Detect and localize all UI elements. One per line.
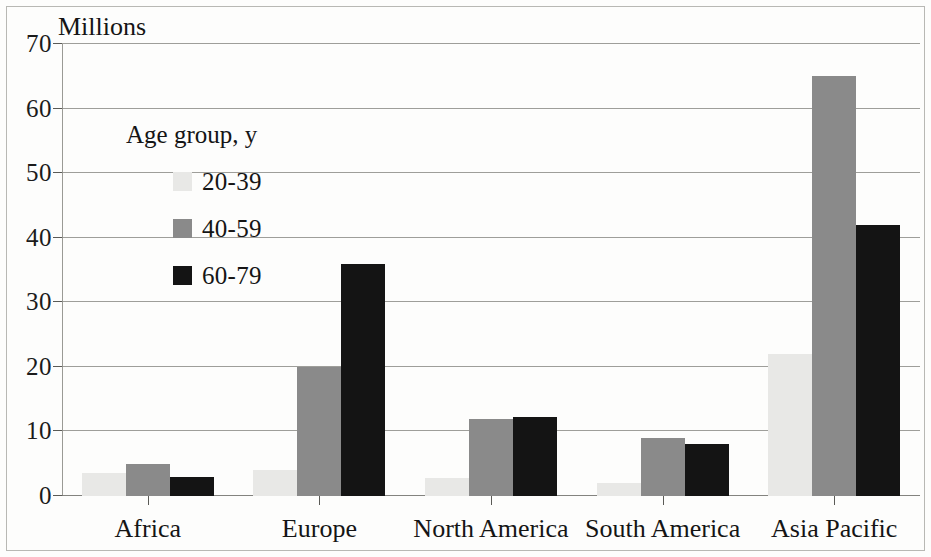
bar[interactable] <box>685 444 729 496</box>
legend-item[interactable]: 20-39 <box>118 169 328 194</box>
bar[interactable] <box>469 419 513 496</box>
bar[interactable] <box>297 367 341 496</box>
y-axis-label-40: 40 <box>26 225 52 250</box>
y-axis-label-20: 20 <box>26 354 52 379</box>
bar-group-bars <box>577 44 749 496</box>
x-tick <box>319 496 320 505</box>
legend-item[interactable]: 40-59 <box>118 216 328 241</box>
legend-items: 20-3940-5960-79 <box>118 169 328 288</box>
legend-item[interactable]: 60-79 <box>118 263 328 288</box>
bar[interactable] <box>341 264 385 496</box>
legend-item-label: 20-39 <box>202 169 262 194</box>
y-axis-label-30: 30 <box>26 289 52 314</box>
x-axis-label-asia-pacific: Asia Pacific <box>748 516 920 542</box>
y-axis-label-70: 70 <box>26 31 52 56</box>
bar[interactable] <box>170 477 214 496</box>
y-tick-40 <box>53 237 62 238</box>
y-tick-60 <box>53 108 62 109</box>
y-tick-0 <box>53 495 62 496</box>
bar[interactable] <box>425 478 469 496</box>
x-tick <box>663 496 664 505</box>
bar[interactable] <box>253 470 297 496</box>
x-axis-label-north-america: North America <box>405 516 577 542</box>
y-axis-label-60: 60 <box>26 96 52 121</box>
bar[interactable] <box>812 76 856 496</box>
bar-group-bars <box>405 44 577 496</box>
bar[interactable] <box>641 438 685 496</box>
y-axis-label-50: 50 <box>26 160 52 185</box>
x-axis-label-south-america: South America <box>577 516 749 542</box>
bar[interactable] <box>126 464 170 496</box>
legend-swatch-icon <box>173 172 192 191</box>
bar-chart-figure: Millions 010203040506070 AfricaEuropeNor… <box>0 0 931 557</box>
bar[interactable] <box>768 354 812 496</box>
y-tick-20 <box>53 366 62 367</box>
y-axis-label-0: 0 <box>39 483 52 508</box>
legend-swatch-icon <box>173 219 192 238</box>
legend-item-label: 40-59 <box>202 216 262 241</box>
y-tick-70 <box>53 43 62 44</box>
legend: Age group, y 20-3940-5960-79 <box>118 122 328 310</box>
y-axis-unit-label: Millions <box>58 14 146 40</box>
legend-swatch-icon <box>173 266 192 285</box>
bar[interactable] <box>597 483 641 496</box>
y-tick-50 <box>53 172 62 173</box>
bar[interactable] <box>856 225 900 496</box>
legend-title: Age group, y <box>118 122 328 147</box>
bar[interactable] <box>513 417 557 496</box>
y-tick-30 <box>53 301 62 302</box>
bar-group-bars <box>748 44 920 496</box>
y-axis-label-10: 10 <box>26 418 52 443</box>
bar-group <box>577 44 749 496</box>
x-axis-label-africa: Africa <box>62 516 234 542</box>
x-axis-label-europe: Europe <box>234 516 406 542</box>
bar-group <box>748 44 920 496</box>
x-tick <box>834 496 835 505</box>
x-tick <box>491 496 492 505</box>
y-axis-tick-labels: 010203040506070 <box>0 44 52 496</box>
bar[interactable] <box>82 473 126 496</box>
bar-group <box>405 44 577 496</box>
legend-item-label: 60-79 <box>202 263 262 288</box>
y-tick-10 <box>53 430 62 431</box>
x-tick <box>148 496 149 505</box>
